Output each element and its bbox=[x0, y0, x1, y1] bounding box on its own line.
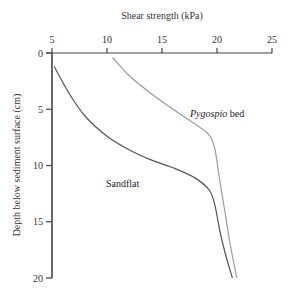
shear-strength-chart: Shear strength (kPa) 510152025 05101520 … bbox=[0, 0, 292, 299]
x-tick-label: 20 bbox=[212, 34, 222, 45]
pygospio-bed-label: Pygospio bed bbox=[189, 108, 244, 119]
y-tick-label: 15 bbox=[33, 216, 43, 227]
x-tick-label: 25 bbox=[267, 34, 277, 45]
x-tick-label: 15 bbox=[157, 34, 167, 45]
sandflat-line bbox=[54, 67, 232, 279]
y-tick-label: 0 bbox=[38, 48, 43, 59]
y-tick-label: 10 bbox=[33, 160, 43, 171]
x-axis: 510152025 bbox=[46, 34, 277, 53]
sandflat-label: Sandflat bbox=[106, 178, 140, 189]
x-axis-title: Shear strength (kPa) bbox=[121, 10, 203, 22]
y-axis: 05101520 bbox=[33, 48, 52, 284]
y-tick-label: 5 bbox=[38, 104, 43, 115]
x-tick-label: 10 bbox=[102, 34, 112, 45]
y-tick-label: 20 bbox=[33, 273, 43, 284]
y-axis-title: Depth below sediment surface (cm) bbox=[11, 94, 23, 237]
pygospio-label-italic: Pygospio bbox=[189, 108, 227, 119]
x-tick-label: 5 bbox=[50, 34, 55, 45]
pygospio-bed-line bbox=[113, 58, 237, 279]
pygospio-label-plain: bed bbox=[227, 108, 244, 119]
series-lines bbox=[54, 58, 237, 279]
